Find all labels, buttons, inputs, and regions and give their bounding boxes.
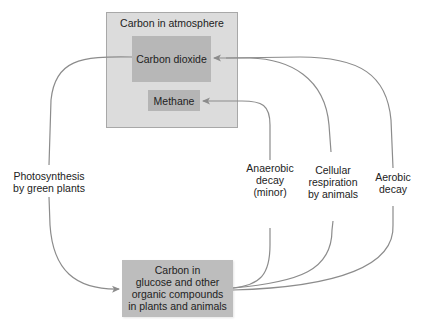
photosynthesis-arrow-bottom: [49, 197, 119, 289]
photosynthesis-line-1: Photosynthesis: [4, 170, 94, 182]
respiration-arrow-top: [214, 58, 331, 152]
respiration-arrow-bottom: [233, 221, 333, 288]
organic-line-4: in plants and animals: [122, 300, 233, 312]
aerobic-decay-label: Aerobic decay: [368, 171, 418, 195]
organic-line-1: Carbon in: [122, 264, 233, 276]
organic-line-2: glucose and other: [122, 276, 233, 288]
carbon-dioxide-label: Carbon dioxide: [132, 53, 211, 65]
organic-compounds-label: Carbon in glucose and other organic comp…: [122, 264, 233, 312]
photosynthesis-arrow-top: [49, 57, 132, 165]
respiration-line-1: Cellular: [300, 164, 366, 176]
anaerobic-arrow-bottom: [233, 228, 270, 288]
methane-label: Methane: [148, 95, 200, 107]
anaerobic-line-2: decay: [240, 174, 300, 186]
anaerobic-arrow-top: [203, 101, 270, 160]
anaerobic-line-3: (minor): [240, 186, 300, 198]
aerobic-line-1: Aerobic: [368, 171, 418, 183]
photosynthesis-label: Photosynthesis by green plants: [4, 170, 94, 194]
aerobic-line-2: decay: [368, 183, 418, 195]
atmosphere-label: Carbon in atmosphere: [106, 17, 238, 29]
anaerobic-line-1: Anaerobic: [240, 162, 300, 174]
aerobic-arrow-bottom: [233, 206, 393, 290]
respiration-line-2: respiration: [300, 176, 366, 188]
organic-line-3: organic compounds: [122, 288, 233, 300]
anaerobic-decay-label: Anaerobic decay (minor): [240, 162, 300, 198]
aerobic-arrow-top: [226, 57, 393, 168]
respiration-line-3: by animals: [300, 188, 366, 200]
cellular-respiration-label: Cellular respiration by animals: [300, 164, 366, 200]
photosynthesis-line-2: by green plants: [4, 182, 94, 194]
